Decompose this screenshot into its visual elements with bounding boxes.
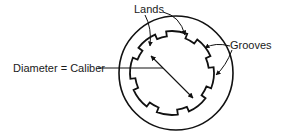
diameter-arrow [151, 56, 193, 98]
barrel-outer-circle [119, 16, 233, 130]
diameter-label: Diameter = Caliber [13, 62, 105, 74]
grooves-label: Grooves [230, 39, 272, 51]
lands-label: Lands [134, 3, 164, 15]
rifled-bore [130, 31, 214, 115]
rifling-diagram: Lands Grooves Diameter = Caliber [0, 0, 283, 134]
lands-leader-1 [145, 15, 150, 46]
